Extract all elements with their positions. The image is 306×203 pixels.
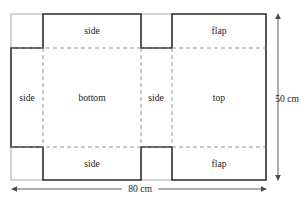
dimension-width-arrow-right: [261, 186, 267, 192]
dimension-height-arrow-top: [275, 13, 281, 19]
cutout-top-left: [11, 14, 43, 48]
dimension-height-arrow-bottom: [275, 175, 281, 181]
dimension-label-width: 80 cm: [128, 184, 152, 194]
cutout-bounding-box: [11, 14, 266, 180]
dimension-width-arrow-left: [11, 186, 17, 192]
cutout-top-notch: [141, 14, 172, 48]
cutout-bottom-notch: [141, 147, 172, 180]
box-net-figure: side flap side bottom side top side flap…: [0, 0, 306, 203]
panel-label-bottom-flap: flap: [212, 159, 227, 169]
panel-label-bottom: bottom: [78, 93, 105, 103]
panel-label-bottom-side: side: [84, 159, 99, 169]
cutout-outlines: [11, 14, 266, 180]
cutout-bottom-left: [11, 147, 43, 180]
dimension-label-height: 50 cm: [275, 94, 299, 104]
panel-label-top-side: side: [84, 26, 99, 36]
panel-label-top: top: [213, 93, 225, 103]
panel-label-left-side: side: [19, 93, 34, 103]
panel-label-middle-side: side: [148, 93, 163, 103]
net-outline: [11, 14, 266, 180]
fold-lines: [11, 48, 266, 147]
panel-label-top-flap: flap: [212, 26, 227, 36]
